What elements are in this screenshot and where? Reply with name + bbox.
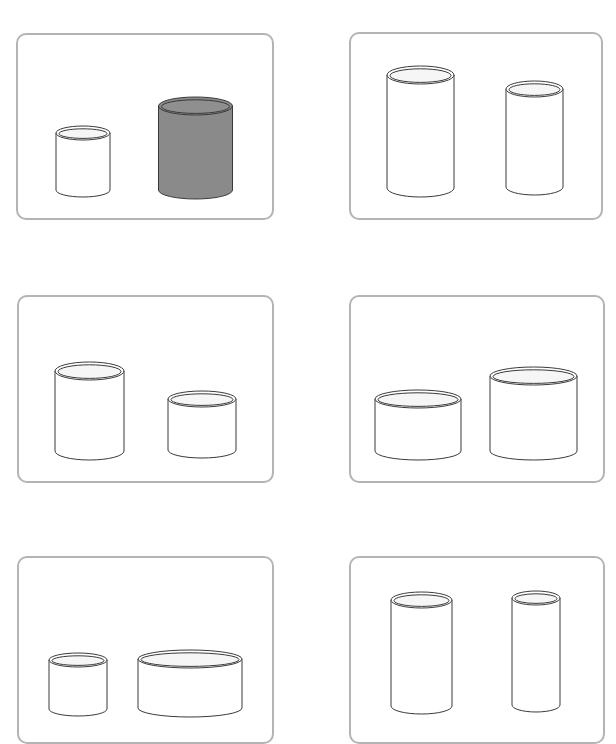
cylinder-medium-tall [55, 362, 124, 460]
cylinder-very-wide-short [138, 650, 242, 717]
cylinder-tall-narrow [506, 81, 563, 195]
cylinder-tall-medium [391, 592, 452, 714]
cylinder-rim-inner [58, 365, 121, 379]
cylinder-wide-short [375, 390, 461, 460]
cylinder-body [168, 399, 236, 458]
cylinder-body [49, 660, 107, 716]
cylinder-rim-inner [141, 653, 239, 667]
cylinder-body [56, 133, 110, 197]
cylinder-rim-inner [59, 129, 107, 139]
cylinder-rim-inner [52, 656, 104, 666]
cylinder-wide-taller [490, 367, 577, 460]
cylinder-medium-short [168, 391, 236, 458]
cylinder-small-short [49, 653, 107, 716]
cylinder-body [512, 598, 560, 712]
cylinder-rim-inner [509, 84, 560, 96]
cylinder-tall-thin [512, 591, 560, 712]
cylinder-small [56, 126, 110, 197]
cylinder-body [159, 106, 233, 199]
cylinder-body [387, 75, 454, 197]
cylinder-tall-wide [387, 66, 454, 197]
cylinder-rim-inner [162, 100, 230, 114]
cylinder-rim-inner [394, 595, 449, 607]
cylinder-body [490, 376, 577, 460]
cylinder-body [506, 89, 563, 195]
cylinder-rim-inner [171, 394, 233, 406]
cylinder-rim-inner [378, 393, 458, 407]
cylinder-large-shaded [159, 97, 233, 199]
cylinder-rim-inner [515, 594, 557, 604]
cylinder-body [391, 600, 452, 714]
cylinder-rim-inner [493, 370, 574, 384]
cylinder-rim-inner [390, 69, 451, 83]
cylinder-body [55, 371, 124, 460]
